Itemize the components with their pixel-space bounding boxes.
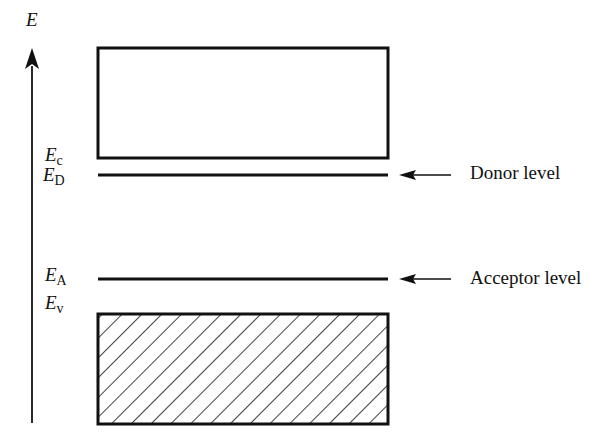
ed-symbol: E — [43, 164, 55, 185]
axis-label-text: E — [26, 9, 38, 30]
ev-subscript: v — [57, 301, 64, 316]
label-ev: Ev — [45, 293, 64, 316]
ed-subscript: D — [55, 173, 65, 188]
ea-subscript: A — [57, 273, 67, 288]
axis-arrowhead-icon — [25, 48, 39, 69]
ea-symbol: E — [45, 264, 57, 285]
band-diagram-canvas — [0, 0, 612, 445]
donor-level-annotation: Donor level — [470, 163, 560, 182]
axis-label: E — [26, 10, 38, 29]
donor-pointer-arrow — [399, 170, 451, 180]
valence-band — [98, 314, 388, 424]
label-ed: ED — [43, 165, 65, 188]
conduction-band — [98, 48, 388, 158]
ec-symbol: E — [45, 144, 57, 165]
acceptor-level-annotation: Acceptor level — [470, 268, 581, 287]
ev-symbol: E — [45, 292, 57, 313]
acceptor-pointer-arrow — [399, 274, 451, 284]
label-ea: EA — [45, 265, 67, 288]
energy-axis — [25, 48, 39, 423]
